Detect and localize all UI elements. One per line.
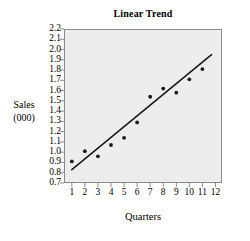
x-axis-tick-label: 12 — [207, 187, 223, 197]
y-axis-title-units: (000) — [2, 112, 46, 123]
linear-trend-chart: Linear Trend 0.70.80.91.01.11.21.31.41.5… — [0, 0, 250, 241]
x-axis-title: Quarters — [64, 211, 222, 222]
y-axis-title: Sales — [2, 99, 46, 110]
